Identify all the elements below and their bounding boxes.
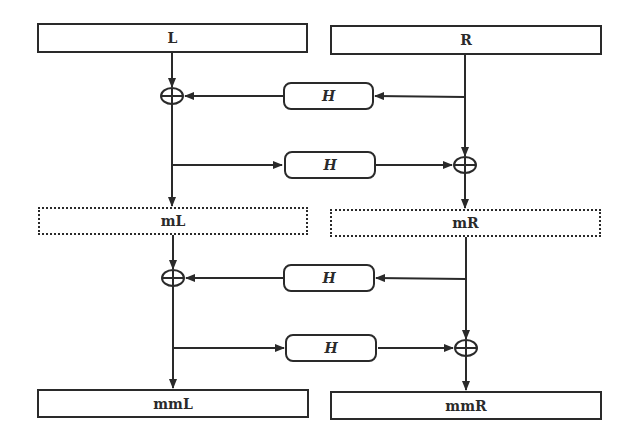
function-H4-label: H: [324, 340, 337, 356]
edge-R-to-H1: [375, 96, 465, 97]
function-H1-label: H: [322, 88, 335, 104]
edge-mR-to-H3: [376, 278, 466, 279]
block-mL: mL: [38, 207, 308, 235]
function-H2: H: [284, 151, 376, 179]
block-L: L: [37, 23, 308, 53]
xor-node-1: [161, 88, 183, 104]
block-R-label: R: [460, 32, 472, 48]
block-mmL: mmL: [37, 389, 309, 418]
block-mR: mR: [330, 209, 601, 237]
block-mmR: mmR: [330, 391, 602, 420]
block-mL-label: mL: [161, 213, 186, 229]
function-H3-label: H: [322, 270, 335, 286]
xor-node-2: [454, 157, 476, 173]
xor-node-3: [162, 270, 184, 286]
block-mmL-label: mmL: [153, 396, 192, 412]
block-R: R: [330, 25, 602, 55]
function-H4: H: [285, 334, 377, 362]
block-L-label: L: [168, 30, 178, 46]
block-mR-label: mR: [452, 215, 478, 231]
diagram-canvas: L R mL mR mmL mmR H H H H: [0, 0, 633, 443]
function-H2-label: H: [323, 157, 336, 173]
function-H1: H: [283, 82, 374, 110]
block-mmR-label: mmR: [445, 398, 486, 414]
xor-node-4: [455, 340, 477, 356]
function-H3: H: [283, 264, 375, 292]
